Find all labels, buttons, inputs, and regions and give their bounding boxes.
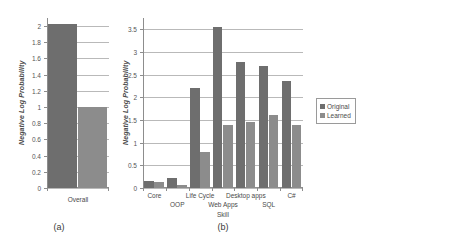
bar-original-overall[interactable] bbox=[48, 24, 77, 188]
bar-original-life-cycle[interactable] bbox=[190, 88, 200, 188]
x-tick-mark bbox=[280, 188, 281, 191]
bar-original-desktop-apps[interactable] bbox=[236, 62, 246, 188]
bar-original-c-[interactable] bbox=[282, 81, 292, 188]
panel-a-plot-area: 00.20.40.60.811.21.41.61.82 bbox=[47, 18, 109, 188]
panel-b-caption: (b) bbox=[218, 222, 229, 232]
y-tick-label: 3 bbox=[117, 49, 137, 56]
x-tick-mark bbox=[302, 188, 303, 191]
x-category-label: Web Apps bbox=[208, 201, 238, 208]
panel-b-plot-area: 00.511.522.533.5 bbox=[143, 18, 303, 188]
panel-a-category-label: Overall bbox=[68, 196, 89, 203]
grid-line bbox=[143, 52, 303, 53]
x-category-label: OOP bbox=[170, 201, 184, 208]
x-tick-mark bbox=[257, 188, 258, 191]
bar-original-core[interactable] bbox=[144, 181, 154, 188]
grid-line bbox=[143, 120, 303, 121]
bar-learned-sql[interactable] bbox=[269, 115, 279, 188]
legend-item-original[interactable]: Original bbox=[320, 102, 351, 111]
y-tick-label: 0.2 bbox=[21, 168, 41, 175]
x-tick-mark bbox=[189, 188, 190, 191]
bar-original-web-apps[interactable] bbox=[213, 27, 223, 188]
x-tick-mark bbox=[108, 188, 109, 191]
bar-learned-desktop-apps[interactable] bbox=[246, 122, 256, 188]
x-tick-mark bbox=[212, 188, 213, 191]
x-category-label: Core bbox=[147, 192, 161, 199]
y-tick-label: 1.6 bbox=[21, 55, 41, 62]
y-tick-label: 2.5 bbox=[117, 71, 137, 78]
x-category-label: SQL bbox=[262, 201, 275, 208]
x-tick-mark bbox=[234, 188, 235, 191]
legend-label-learned: Learned bbox=[327, 112, 351, 119]
x-tick-mark bbox=[47, 188, 48, 191]
grid-line bbox=[143, 97, 303, 98]
x-tick-mark bbox=[166, 188, 167, 191]
grid-line bbox=[47, 188, 109, 189]
y-tick-label: 1.8 bbox=[21, 39, 41, 46]
grid-line bbox=[143, 188, 303, 189]
chart-panel-b: Negative Log Probability 00.511.522.533.… bbox=[118, 0, 454, 248]
x-tick-mark bbox=[143, 188, 144, 191]
y-tick-label: 2 bbox=[117, 94, 137, 101]
bar-learned-life-cycle[interactable] bbox=[200, 152, 210, 188]
y-tick-label: 1.2 bbox=[21, 87, 41, 94]
x-category-label: Life Cycle bbox=[186, 192, 215, 199]
y-tick-label: 3.5 bbox=[117, 26, 137, 33]
y-tick-label: 0.6 bbox=[21, 136, 41, 143]
x-category-label: Desktop apps bbox=[226, 192, 266, 199]
bar-learned-web-apps[interactable] bbox=[223, 125, 233, 188]
y-tick-label: 0.5 bbox=[117, 162, 137, 169]
figure-root: Negative Log Probability 00.20.40.60.811… bbox=[0, 0, 454, 248]
chart-legend: Original Learned bbox=[316, 98, 356, 124]
y-tick-label: 0.4 bbox=[21, 152, 41, 159]
bar-learned-overall[interactable] bbox=[78, 107, 107, 188]
y-tick-label: 1.5 bbox=[117, 117, 137, 124]
y-tick-label: 2 bbox=[21, 23, 41, 30]
y-tick-label: 0.8 bbox=[21, 120, 41, 127]
bar-learned-oop[interactable] bbox=[177, 185, 187, 188]
bar-learned-c-[interactable] bbox=[292, 125, 302, 188]
y-tick-label: 0 bbox=[21, 185, 41, 192]
legend-label-original: Original bbox=[327, 103, 349, 110]
legend-swatch-original-icon bbox=[320, 104, 325, 109]
grid-line bbox=[143, 29, 303, 30]
y-axis-line bbox=[143, 18, 144, 188]
y-tick-label: 1 bbox=[21, 104, 41, 111]
bar-learned-core[interactable] bbox=[154, 182, 164, 188]
chart-panel-a: Negative Log Probability 00.20.40.60.811… bbox=[0, 0, 118, 248]
y-tick-label: 0 bbox=[117, 185, 137, 192]
bar-original-sql[interactable] bbox=[259, 66, 269, 188]
x-category-label: C# bbox=[287, 192, 295, 199]
legend-item-learned[interactable]: Learned bbox=[320, 111, 351, 120]
panel-a-caption: (a) bbox=[54, 222, 65, 232]
bar-original-oop[interactable] bbox=[167, 178, 177, 188]
grid-line bbox=[143, 75, 303, 76]
y-tick-label: 1.4 bbox=[21, 71, 41, 78]
panel-b-x-axis-label: Skill bbox=[217, 211, 229, 218]
legend-swatch-learned-icon bbox=[320, 113, 325, 118]
y-tick-label: 1 bbox=[117, 139, 137, 146]
